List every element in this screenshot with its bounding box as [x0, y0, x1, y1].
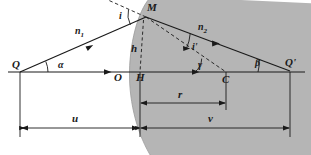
label-dimension-v: v [208, 113, 213, 124]
label-medium-n2: n2 [198, 22, 207, 35]
label-point-C: C [222, 74, 229, 85]
label-angle-i: i [119, 11, 122, 21]
incident-ray-arrow [86, 45, 94, 51]
label-angle-beta: β [255, 58, 260, 68]
diagram-canvas [0, 0, 311, 155]
label-point-Q-prime: Q' [285, 57, 296, 68]
normal-line-upper [108, 0, 146, 17]
label-angle-alpha: α [58, 60, 64, 70]
label-angle-i-prime: i' [192, 42, 198, 52]
label-medium-n1: n1 [75, 26, 84, 39]
label-point-M: M [147, 2, 157, 13]
label-dimension-r: r [178, 89, 182, 100]
medium-n2-region [129, 0, 311, 155]
label-point-H: H [136, 72, 145, 83]
angle-alpha-arc [46, 62, 48, 73]
label-point-O: O [114, 72, 122, 83]
label-dimension-h: h [131, 43, 137, 54]
label-medium-n1-index: 1 [81, 31, 85, 39]
refraction-diagram: Q M O H C Q' n1 n2 α i i' γ β h u r v [0, 0, 311, 155]
label-point-Q: Q [12, 59, 20, 70]
label-dimension-u: u [72, 113, 78, 124]
axis-direction-arrow [104, 69, 112, 74]
dim-arrow-u-left [21, 125, 28, 130]
label-medium-n2-index: 2 [204, 27, 208, 35]
label-angle-gamma: γ [198, 60, 202, 70]
angle-i-arc [128, 10, 131, 25]
